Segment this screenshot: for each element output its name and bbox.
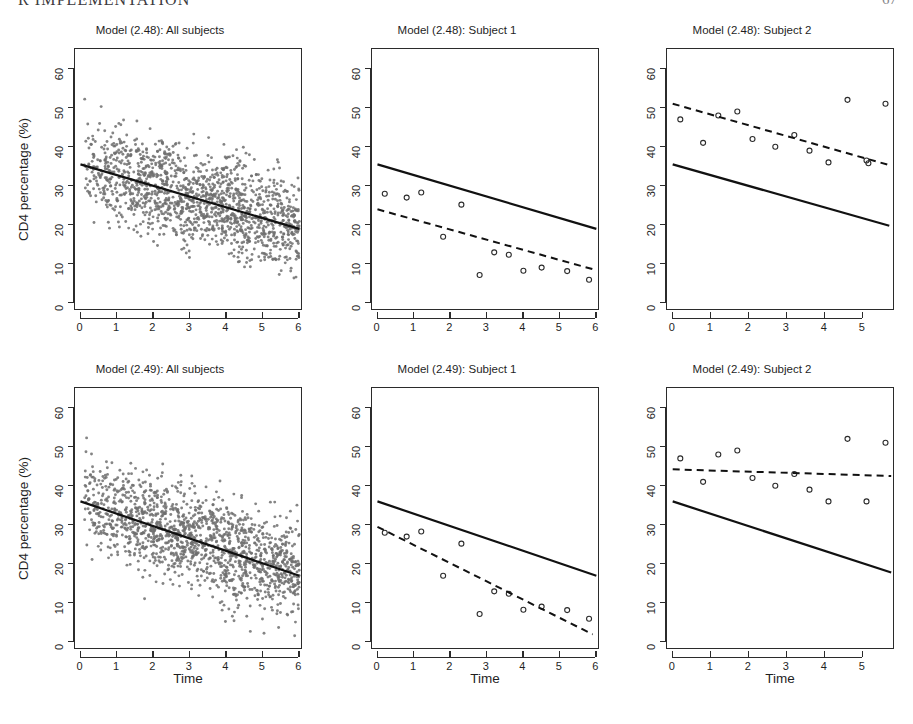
y-axis-tick-label: 40 [350, 485, 362, 497]
y-axis-tick-label: 0 [350, 644, 362, 650]
x-axis-tick [298, 312, 299, 318]
x-axis-tick [522, 651, 523, 657]
y-axis-tick-label: 40 [350, 146, 362, 158]
y-axis-tick-label: 60 [645, 67, 657, 79]
chart-panel-p248-s1: Model (2.48): Subject 101020304050600123… [305, 14, 609, 354]
x-axis-tick-label: 4 [222, 321, 228, 333]
y-axis-tick-label: 10 [350, 263, 362, 275]
y-axis-tick-label: 20 [645, 224, 657, 236]
y-axis-tick-label: 50 [645, 107, 657, 119]
chart-panel-p248-all: Model (2.48): All subjects01020304050600… [8, 14, 312, 354]
y-axis-tick-label: 0 [53, 644, 65, 650]
x-axis-tick-label: 5 [859, 321, 865, 333]
scatter-series [382, 529, 591, 621]
y-axis-tick [68, 641, 74, 642]
plot-area [74, 387, 302, 649]
x-axis-tick [672, 651, 673, 657]
x-axis-tick [595, 312, 596, 318]
x-axis-line [672, 657, 862, 658]
y-axis-tick [68, 407, 74, 408]
y-axis-tick [365, 224, 371, 225]
y-axis-tick-label: 30 [53, 524, 65, 536]
y-axis-tick [660, 485, 666, 486]
y-axis-tick-label: 60 [350, 67, 362, 79]
y-axis-tick [365, 146, 371, 147]
y-axis-tick [365, 107, 371, 108]
x-axis-tick [748, 651, 749, 657]
x-axis-tick-label: 6 [592, 321, 598, 333]
population-fit-line [377, 501, 596, 575]
x-axis-tick [225, 651, 226, 657]
y-axis: 0102030405060 [648, 48, 666, 310]
x-axis-tick [449, 312, 450, 318]
x-axis-tick [262, 312, 263, 318]
x-axis-tick [262, 651, 263, 657]
x-axis-tick [559, 651, 560, 657]
panel-title: Model (2.49): All subjects [8, 363, 312, 375]
x-axis-tick [152, 651, 153, 657]
y-axis: 0102030405060 [353, 48, 371, 310]
y-axis-tick [68, 185, 74, 186]
y-axis-tick-label: 20 [350, 563, 362, 575]
x-axis-tick-label: 5 [259, 321, 265, 333]
subject-specific-fit-line [377, 527, 592, 635]
y-axis-tick [68, 68, 74, 69]
y-axis-tick-label: 10 [645, 602, 657, 614]
x-axis-tick-label: 1 [410, 321, 416, 333]
y-axis-tick [660, 68, 666, 69]
x-axis-tick [559, 312, 560, 318]
x-axis-tick [225, 312, 226, 318]
x-axis: 0123456 [371, 310, 599, 336]
y-axis-tick [660, 563, 666, 564]
scatter-series [678, 97, 888, 165]
x-axis-tick [824, 312, 825, 318]
x-axis-tick [189, 312, 190, 318]
y-axis-tick [660, 107, 666, 108]
y-axis-tick [365, 185, 371, 186]
x-axis-tick-label: 0 [373, 321, 379, 333]
x-axis-tick [862, 651, 863, 657]
y-axis-tick-label: 40 [645, 485, 657, 497]
x-axis-label: Time [74, 671, 302, 686]
y-axis-tick-label: 30 [645, 185, 657, 197]
x-axis-line [80, 318, 299, 319]
subject-specific-fit-line [673, 104, 890, 165]
y-axis-tick [660, 224, 666, 225]
y-axis-label: CD4 percentage (%) [16, 48, 32, 310]
y-axis-tick-label: 30 [350, 524, 362, 536]
y-axis: 0102030405060 [353, 387, 371, 649]
x-axis-tick [748, 312, 749, 318]
y-axis-tick [68, 107, 74, 108]
x-axis-tick [116, 651, 117, 657]
y-axis-tick-label: 0 [350, 305, 362, 311]
x-axis-tick [522, 312, 523, 318]
x-axis-tick-label: 4 [519, 321, 525, 333]
y-axis-tick [365, 68, 371, 69]
x-axis-tick [189, 651, 190, 657]
y-axis-tick-label: 60 [53, 406, 65, 418]
plot-area [666, 387, 894, 649]
subject-specific-fit-line [673, 469, 892, 476]
y-axis-tick [365, 563, 371, 564]
y-axis-tick [68, 302, 74, 303]
y-axis-tick-label: 0 [645, 644, 657, 650]
y-axis-tick [365, 302, 371, 303]
y-axis-tick-label: 0 [53, 305, 65, 311]
panel-title: Model (2.49): Subject 1 [305, 363, 609, 375]
y-axis-tick-label: 20 [53, 224, 65, 236]
x-axis-tick-label: 0 [76, 321, 82, 333]
x-axis-tick-label: 2 [745, 321, 751, 333]
y-axis-tick-label: 40 [645, 146, 657, 158]
x-axis-tick [413, 312, 414, 318]
y-axis-tick [660, 146, 666, 147]
y-axis-tick [68, 602, 74, 603]
x-axis-tick [377, 651, 378, 657]
plot-area [666, 48, 894, 310]
x-axis-tick [449, 651, 450, 657]
x-axis-tick [672, 312, 673, 318]
x-axis-tick-label: 0 [669, 321, 675, 333]
y-axis-tick-label: 0 [645, 305, 657, 311]
y-axis-tick [660, 602, 666, 603]
panel-title: Model (2.49): Subject 2 [600, 363, 904, 375]
x-axis-tick-label: 3 [783, 321, 789, 333]
